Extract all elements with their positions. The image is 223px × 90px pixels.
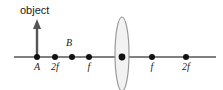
point-dot-B: [69, 54, 75, 60]
diagram-canvas: object A 2f B f f 2f: [0, 0, 223, 90]
point-label-B: B: [66, 37, 72, 48]
point-dot-center: [119, 54, 126, 61]
point-dot-2f-right: [183, 54, 189, 60]
optics-diagram: object A 2f B f f 2f: [0, 0, 223, 90]
point-label-f-left: f: [88, 61, 92, 72]
point-label-2f-right: 2f: [182, 61, 191, 72]
point-dot-A: [34, 54, 40, 60]
point-dot-f-left: [86, 54, 92, 60]
object-arrow-head: [33, 19, 41, 29]
point-label-A: A: [33, 61, 41, 72]
object-label: object: [20, 4, 49, 16]
point-label-f-right: f: [151, 61, 155, 72]
converging-lens-icon: [115, 17, 129, 90]
point-label-2f-left: 2f: [51, 61, 60, 72]
point-dot-f-right: [149, 54, 155, 60]
point-dot-2f-left: [52, 54, 58, 60]
